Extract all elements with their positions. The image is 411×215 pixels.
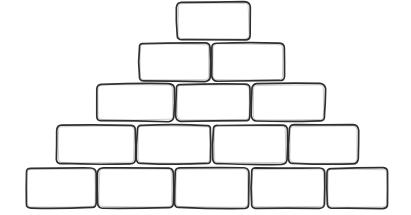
brick-row-4 [56, 125, 358, 165]
brick-row-2 [139, 43, 285, 82]
brick-r1-c1[interactable] [176, 2, 250, 40]
brick-r5-c3[interactable] [175, 168, 249, 209]
brick-row-1 [176, 2, 250, 40]
brick-r4-c2[interactable] [136, 125, 211, 164]
brick-r5-c4[interactable] [251, 168, 325, 208]
brick-layer [26, 2, 387, 209]
brick-r4-c1[interactable] [56, 125, 135, 164]
brick-r5-c5[interactable] [327, 168, 388, 209]
brick-r2-c2[interactable] [212, 43, 285, 82]
brick-r5-c1[interactable] [26, 168, 96, 208]
brick-r2-c1[interactable] [139, 43, 211, 82]
brick-pyramid-diagram [0, 0, 411, 215]
brick-r3-c1[interactable] [97, 83, 175, 121]
brick-r3-c2[interactable] [176, 84, 251, 121]
brick-row-3 [97, 83, 326, 122]
brick-r4-c3[interactable] [213, 125, 288, 164]
diagram-canvas [0, 0, 411, 215]
brick-r5-c2[interactable] [97, 168, 173, 208]
brick-r3-c3[interactable] [251, 83, 325, 121]
brick-r4-c4[interactable] [288, 125, 358, 164]
brick-row-5 [26, 168, 387, 209]
